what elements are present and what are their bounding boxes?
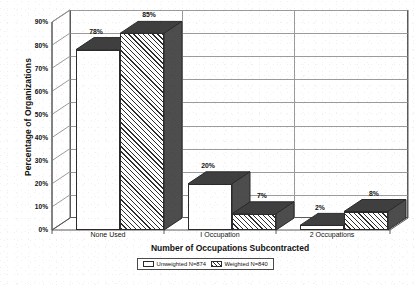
plot-area: 78% 85% 20% 7% 2% 8% (52, 10, 408, 230)
bar-two-occupations-weighted (344, 10, 388, 230)
legend-swatch-unweighted-icon (143, 261, 154, 268)
bar-none-used-unweighted (76, 10, 120, 230)
y-tick-label: 50% (22, 111, 48, 118)
y-tick-label: 70% (22, 65, 48, 72)
bar-one-occupation-unweighted (188, 10, 232, 230)
y-tick-label: 90% (22, 18, 48, 25)
chart-legend: Unweighted N=874 Weighted N=840 (137, 258, 274, 270)
y-tick-label: 10% (22, 203, 48, 210)
x-axis-title: Number of Occupations Subcontracted (60, 243, 400, 253)
y-tick-label: 20% (22, 180, 48, 187)
bar-value-label: 85% (129, 11, 169, 18)
y-tick-label: 80% (22, 42, 48, 49)
bar-value-label: 8% (354, 190, 394, 197)
bar-chart: Percentage of Organizations 0% 10% 20% 3… (0, 0, 417, 288)
legend-label-weighted: Weighted N=840 (224, 261, 267, 267)
bar-value-label: 20% (188, 162, 228, 169)
y-tick-label: 30% (22, 157, 48, 164)
bar-none-used-weighted (120, 10, 164, 230)
y-tick-label: 40% (22, 134, 48, 141)
bar-value-label: 7% (242, 192, 282, 199)
x-tick-label-one-occupation: I Occupation (173, 231, 267, 238)
x-tick-label-two-occupations: 2 Occupations (285, 231, 379, 238)
y-tick-label: 60% (22, 88, 48, 95)
x-tick-label-none-used: None Used (61, 231, 155, 238)
bar-value-label: 78% (76, 28, 116, 35)
bar-two-occupations-unweighted (300, 10, 344, 230)
legend-item-weighted: Weighted N=840 (211, 261, 268, 268)
legend-swatch-weighted-icon (211, 261, 222, 268)
bar-value-label: 2% (300, 204, 340, 211)
y-tick-label: 0% (22, 226, 48, 233)
legend-item-unweighted: Unweighted N=874 (143, 261, 206, 268)
legend-label-unweighted: Unweighted N=874 (157, 261, 206, 267)
